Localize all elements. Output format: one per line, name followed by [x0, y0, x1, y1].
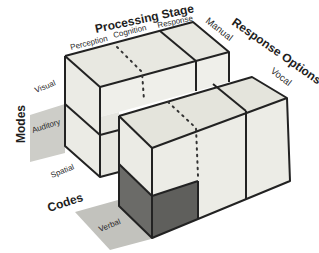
label-visual: Visual — [33, 78, 57, 95]
back-block-lower-front — [100, 112, 119, 177]
modes-title: Modes — [14, 105, 28, 143]
multiple-resource-diagram: Processing Stage Perception Cognition Re… — [0, 0, 319, 253]
label-spatial: Spatial — [49, 162, 75, 180]
